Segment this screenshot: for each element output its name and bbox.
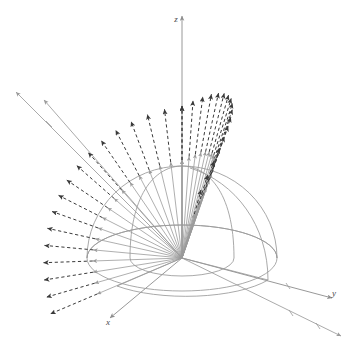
vector-field-hemisphere-figure: z y x <box>0 0 355 348</box>
x-axis-label: x <box>105 317 110 327</box>
z-axis-label: z <box>173 14 178 24</box>
y-axis-label: y <box>331 288 336 298</box>
figure-background <box>0 0 355 348</box>
